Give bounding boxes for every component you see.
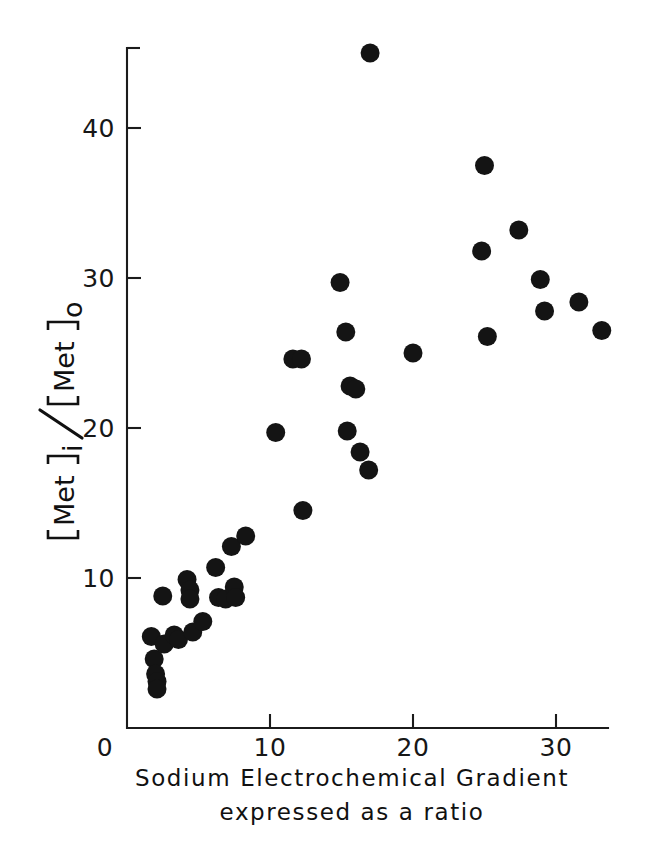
fraction-slash: [40, 410, 82, 438]
data-point: [331, 273, 350, 292]
x-tick-group: 0102030: [97, 714, 573, 762]
plot-canvas: 10203040 0102030 Met i Met o Sodium Elec…: [0, 0, 654, 846]
numerator-subscript: i: [57, 444, 88, 452]
data-point: [293, 501, 312, 520]
data-point: [292, 350, 311, 369]
x-axis-title-line1: Sodium Electrochemical Gradient: [135, 765, 569, 791]
data-point: [569, 293, 588, 312]
x-tick-label: 10: [254, 733, 287, 762]
data-point: [592, 321, 611, 340]
denominator-open-bracket: [48, 396, 78, 404]
data-point: [266, 423, 285, 442]
y-tick-label: 20: [82, 414, 115, 443]
denominator-subscript: o: [57, 301, 88, 318]
data-point: [478, 327, 497, 346]
numerator-open-bracket: [48, 530, 78, 538]
y-tick-label: 10: [82, 564, 115, 593]
data-point: [475, 156, 494, 175]
data-point: [535, 302, 554, 321]
y-tick-label: 40: [82, 114, 115, 143]
data-point: [361, 44, 380, 63]
x-tick-label: 0: [97, 733, 113, 762]
y-tick-group: 10203040: [82, 114, 141, 593]
data-point: [509, 221, 528, 240]
y-tick-label: 30: [82, 264, 115, 293]
data-point-group: [142, 44, 611, 699]
data-point: [206, 558, 225, 577]
data-point: [193, 612, 212, 631]
data-point: [153, 587, 172, 606]
x-tick-label: 30: [540, 733, 573, 762]
y-axis-title: Met i Met o: [40, 301, 88, 538]
x-axis-title-line2: expressed as a ratio: [220, 799, 485, 825]
data-point: [338, 422, 357, 441]
data-point: [180, 590, 199, 609]
numerator-text: Met: [49, 476, 80, 527]
scatter-plot-figure: 10203040 0102030 Met i Met o Sodium Elec…: [0, 0, 654, 846]
data-point: [346, 380, 365, 399]
data-point: [148, 680, 167, 699]
data-point: [351, 443, 370, 462]
denominator-text: Met: [49, 342, 80, 393]
data-point: [404, 344, 423, 363]
denominator-close-bracket: [48, 322, 78, 330]
data-point: [472, 242, 491, 261]
data-point: [226, 588, 245, 607]
data-point: [236, 527, 255, 546]
data-point: [359, 461, 378, 480]
data-point: [531, 270, 550, 289]
data-point: [336, 323, 355, 342]
x-tick-label: 20: [397, 733, 430, 762]
numerator-close-bracket: [48, 456, 78, 464]
